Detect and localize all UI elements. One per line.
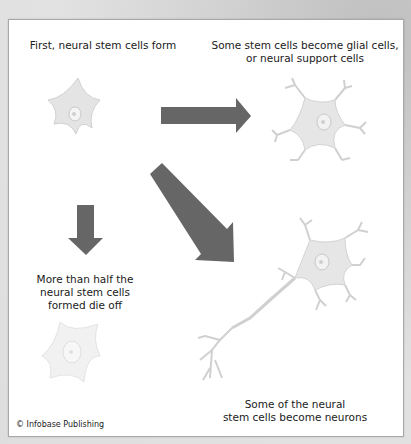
label-neuron-line1: Some of the neural (225, 398, 365, 411)
stem-cell-icon (48, 78, 100, 134)
label-die-line1: More than half the (25, 273, 145, 286)
arrow-diagonal-icon (150, 163, 234, 262)
label-neuron-line2: stem cells become neurons (215, 411, 375, 424)
label-die-line3: formed die off (25, 299, 145, 312)
arrow-right-icon (161, 98, 251, 133)
diagram-graphics (0, 0, 411, 444)
label-glial-line2: or neural support cells (205, 52, 405, 65)
arrow-down-icon (68, 205, 103, 255)
label-glial-line1: Some stem cells become glial cells, (205, 39, 405, 52)
dying-cell-icon (42, 322, 100, 382)
label-step1: First, neural stem cells form (28, 39, 178, 52)
label-die-line2: neural stem cells (25, 286, 145, 299)
glial-cell-icon (272, 78, 366, 160)
copyright-credit: © Infobase Publishing (16, 420, 104, 429)
